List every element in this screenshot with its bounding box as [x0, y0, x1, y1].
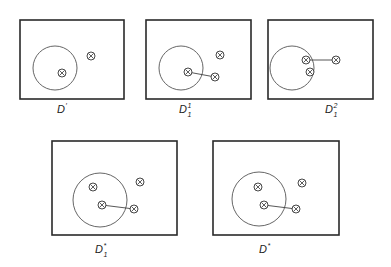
circled-x-point-icon — [306, 68, 314, 76]
panel-label-subscript: 1 — [334, 111, 338, 118]
circled-x-point-icon — [130, 205, 138, 213]
circled-x-point-icon — [254, 183, 262, 191]
panel-label: D — [259, 243, 267, 255]
panel-frame — [146, 20, 251, 99]
panel-label-subscript: 1 — [188, 111, 192, 118]
region-circle — [270, 46, 314, 90]
circled-x-point-icon — [302, 56, 310, 64]
panel-D1-1: D11 — [146, 20, 251, 118]
circled-x-point-icon — [292, 205, 300, 213]
circled-x-point-icon — [98, 201, 106, 209]
panel-frame — [213, 141, 339, 235]
panel-frame — [268, 20, 373, 99]
circled-x-point-icon — [332, 56, 340, 64]
panel-D1-2: D21 — [268, 20, 373, 118]
panel-D-star: D* — [213, 141, 339, 255]
circled-x-point-icon — [298, 179, 306, 187]
panel-label-subscript: 1 — [104, 251, 108, 258]
region-circle — [33, 46, 77, 90]
connector-line — [264, 205, 296, 209]
panel-label-superscript: 1 — [188, 102, 192, 109]
panel-label: D — [95, 243, 103, 255]
panel-frame — [52, 141, 177, 235]
region-circle — [232, 172, 286, 226]
circled-x-point-icon — [260, 201, 268, 209]
region-circle — [73, 173, 127, 227]
panel-label-superscript: * — [268, 242, 271, 249]
circled-x-point-icon — [211, 73, 219, 81]
panel-label-superscript: ′ — [66, 102, 68, 109]
panel-label: D — [325, 103, 333, 115]
panel-label: D — [57, 103, 65, 115]
region-circle — [159, 46, 203, 90]
circled-x-point-icon — [87, 52, 95, 60]
panel-frame — [20, 20, 124, 99]
connector-line — [102, 205, 134, 209]
panel-D1-star: D*1 — [52, 141, 177, 258]
panel-label-superscript: * — [104, 242, 107, 249]
panel-label: D — [179, 103, 187, 115]
panel-D-prime: D′ — [20, 20, 124, 115]
diagram-canvas: D′D11D21D*1D* — [0, 0, 391, 267]
circled-x-point-icon — [184, 68, 192, 76]
panel-label-superscript: 2 — [333, 102, 338, 109]
circled-x-point-icon — [136, 178, 144, 186]
circled-x-point-icon — [216, 51, 224, 59]
circled-x-point-icon — [89, 183, 97, 191]
circled-x-point-icon — [58, 69, 66, 77]
